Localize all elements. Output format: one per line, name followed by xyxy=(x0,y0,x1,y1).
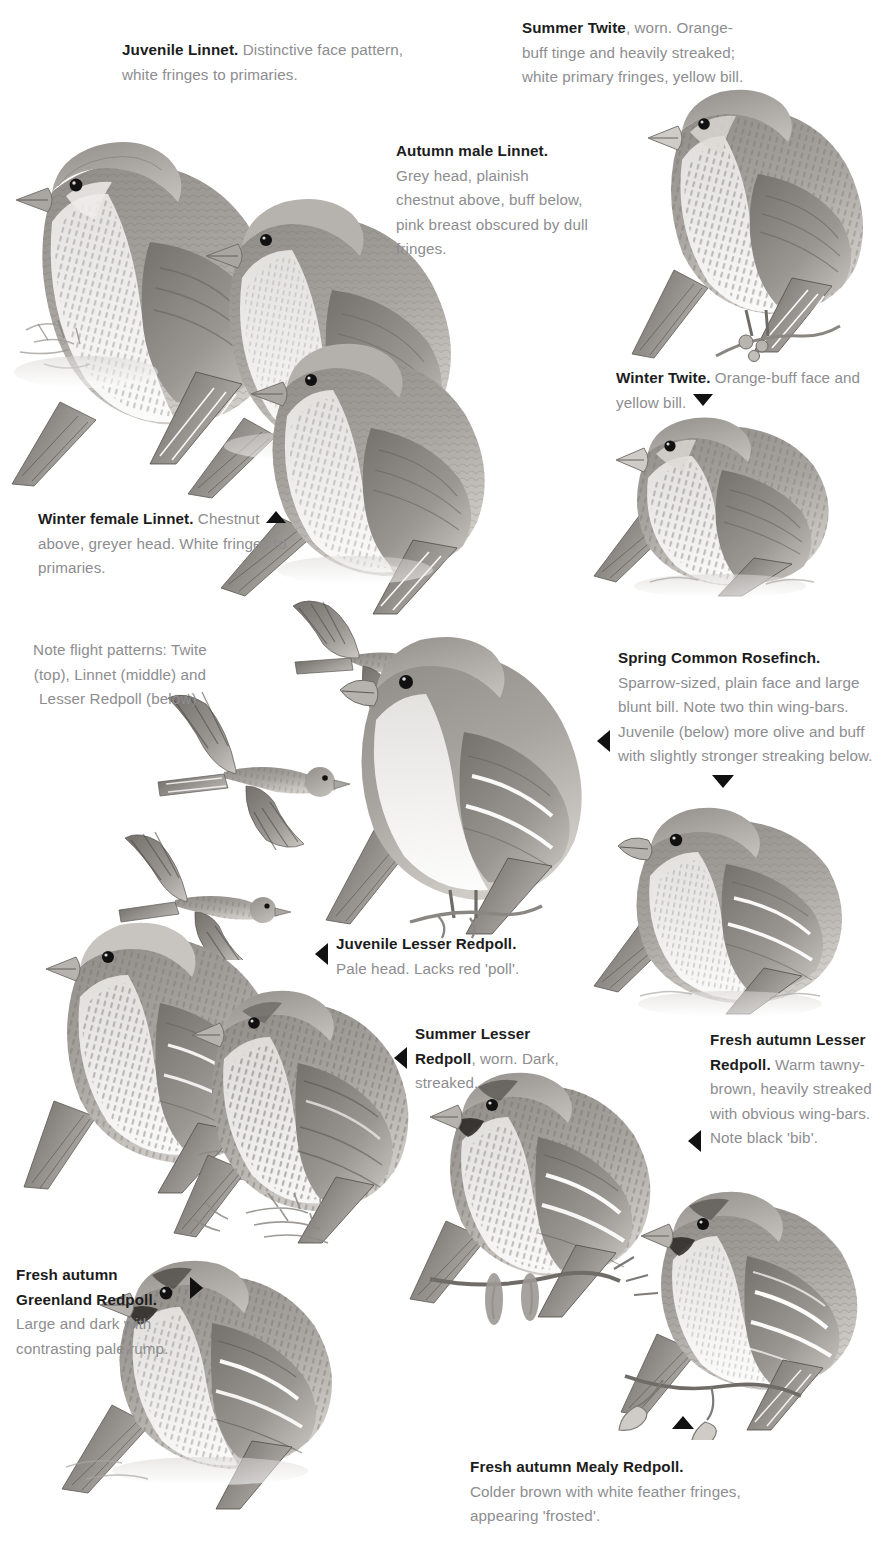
field-guide-page: Juvenile Linnet. Distinctive face patter… xyxy=(0,0,885,1554)
caption-juvenile-lesser-redpoll: Juvenile Lesser Redpoll. Pale head. Lack… xyxy=(336,932,586,981)
caption-summer-twite-lead: Summer Twite xyxy=(522,19,626,36)
caption-autumn-male-linnet: Autumn male Linnet. Grey head, plainish … xyxy=(396,139,591,262)
winter-twite-illustration xyxy=(590,400,880,600)
greenland-redpoll-pointer-icon xyxy=(190,1277,203,1299)
caption-juvenile-linnet-lead: Juvenile Linnet. xyxy=(122,41,238,58)
summer-lesser-redpoll-pointer-icon xyxy=(394,1047,407,1069)
caption-juvenile-linnet: Juvenile Linnet. Distinctive face patter… xyxy=(122,38,422,87)
caption-winter-twite-lead: Winter Twite. xyxy=(616,369,711,386)
caption-spring-common-rosefinch: Spring Common Rosefinch. Sparrow-sized, … xyxy=(618,646,880,769)
caption-winter-twite: Winter Twite. Orange-buff face and yello… xyxy=(616,366,881,415)
winter-twite-pointer-icon xyxy=(693,394,713,406)
fresh-autumn-lesser-redpoll-pointer-icon xyxy=(688,1130,701,1152)
juvenile-rosefinch-illustration xyxy=(590,790,885,1020)
spring-common-rosefinch-illustration xyxy=(300,590,620,940)
mealy-redpoll-pointer-icon xyxy=(672,1416,694,1429)
caption-fresh-autumn-lesser-redpoll: Fresh autumn Lesser Redpoll. Warm tawny-… xyxy=(710,1028,882,1151)
caption-fresh-autumn-mealy-redpoll-body: Colder brown with white feather fringes,… xyxy=(470,1480,770,1529)
caption-winter-female-linnet-body-rest: above, greyer head. White fringes to pri… xyxy=(38,532,338,581)
caption-juvenile-lesser-redpoll-lead: Juvenile Lesser Redpoll. xyxy=(336,932,586,957)
caption-spring-common-rosefinch-body: Sparrow-sized, plain face and large blun… xyxy=(618,671,880,769)
caption-fresh-autumn-mealy-redpoll: Fresh autumn Mealy Redpoll. Colder brown… xyxy=(470,1455,770,1529)
caption-winter-female-linnet: Winter female Linnet. Chestnut above, gr… xyxy=(38,507,338,581)
caption-juvenile-lesser-redpoll-body: Pale head. Lacks red 'poll'. xyxy=(336,957,586,982)
caption-summer-twite: Summer Twite, worn. Orange-buff tinge an… xyxy=(522,16,747,90)
caption-fresh-autumn-mealy-redpoll-lead: Fresh autumn Mealy Redpoll. xyxy=(470,1455,770,1480)
caption-fresh-autumn-greenland-redpoll: Fresh autumn Greenland Redpoll. Large an… xyxy=(16,1263,196,1361)
winter-female-linnet-pointer-icon xyxy=(266,511,286,523)
caption-flight-note: Note flight patterns: Twite (top), Linne… xyxy=(20,638,220,712)
caption-winter-female-linnet-lead: Winter female Linnet. xyxy=(38,510,194,527)
summer-lesser-redpoll-illustration xyxy=(168,975,438,1245)
caption-fresh-autumn-greenland-redpoll-lead: Fresh autumn Greenland Redpoll. xyxy=(16,1263,196,1312)
caption-autumn-male-linnet-body: Grey head, plainish chestnut above, buff… xyxy=(396,164,591,262)
caption-spring-common-rosefinch-lead: Spring Common Rosefinch. xyxy=(618,646,880,671)
caption-fresh-autumn-greenland-redpoll-body: Large and dark with contrasting pale rum… xyxy=(16,1312,196,1361)
rosefinch-juvenile-pointer-icon xyxy=(712,775,734,788)
caption-flight-note-body: Note flight patterns: Twite (top), Linne… xyxy=(33,641,207,707)
caption-winter-female-linnet-body-first: Chestnut xyxy=(194,510,260,527)
caption-summer-lesser-redpoll: Summer Lesser Redpoll, worn. Dark, strea… xyxy=(415,1022,575,1096)
caption-autumn-male-linnet-lead: Autumn male Linnet. xyxy=(396,139,591,164)
rosefinch-left-pointer-icon xyxy=(597,730,610,752)
juvenile-lesser-redpoll-pointer-icon xyxy=(315,943,328,965)
fresh-autumn-mealy-redpoll-illustration xyxy=(615,1180,885,1440)
summer-twite-illustration xyxy=(620,70,885,390)
